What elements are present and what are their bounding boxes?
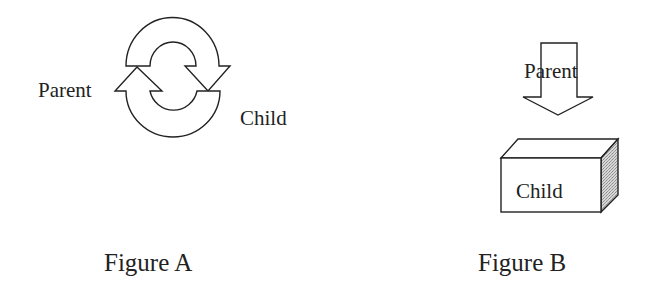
figure-b-parent-label: Parent xyxy=(524,61,578,82)
diagram-canvas xyxy=(0,0,653,287)
figure-b-child-label: Child xyxy=(516,181,563,202)
figure-a-parent-label: Parent xyxy=(38,80,92,101)
figure-a-caption: Figure A xyxy=(104,250,192,275)
box-top-face xyxy=(501,139,618,158)
figure-a-child-label: Child xyxy=(240,108,287,129)
figure-a-cycle-arrows xyxy=(115,17,230,137)
figure-b-caption: Figure B xyxy=(478,250,566,275)
